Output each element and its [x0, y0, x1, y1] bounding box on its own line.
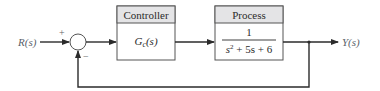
plus-sign: + — [59, 27, 65, 38]
controller-title: Controller — [123, 9, 169, 21]
output-label: Y(s) — [342, 36, 360, 49]
input-label: R(s) — [17, 36, 37, 49]
process-block: Process 1 s2 + 5s + 6 — [215, 6, 283, 60]
controller-transfer-function: Gc(s) — [134, 35, 157, 49]
summing-junction — [70, 34, 86, 50]
process-denominator: s2 + 5s + 6 — [226, 43, 273, 55]
minus-sign: − — [83, 51, 89, 62]
process-title: Process — [232, 9, 266, 21]
process-numerator: 1 — [246, 26, 252, 38]
controller-block: Controller Gc(s) — [117, 6, 175, 60]
block-diagram: R(s) + − Controller Gc(s) Process 1 s2 +… — [0, 0, 380, 91]
